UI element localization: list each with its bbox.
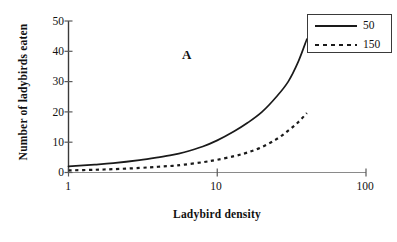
series-line-150 (69, 113, 307, 170)
legend: 50 150 (307, 14, 392, 53)
legend-entry-150: 150 (308, 35, 393, 54)
dashed-line-sample (315, 44, 357, 46)
legend-label: 50 (363, 18, 375, 33)
solid-line-sample (315, 25, 357, 27)
chart-container: Number of ladybirds eaten Ladybird densi… (0, 0, 397, 242)
legend-label: 150 (363, 37, 380, 52)
legend-entry-50: 50 (308, 16, 393, 35)
series-line-50 (69, 39, 307, 166)
